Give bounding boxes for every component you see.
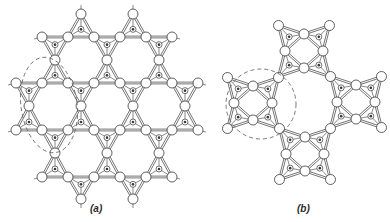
sphere xyxy=(248,115,258,125)
sphere xyxy=(76,194,86,204)
sphere xyxy=(89,78,99,88)
sphere xyxy=(370,97,380,107)
sphere xyxy=(300,132,310,142)
sphere xyxy=(115,172,125,182)
sphere xyxy=(76,9,86,19)
sphere xyxy=(167,78,177,88)
sphere xyxy=(332,97,342,107)
sphere xyxy=(280,46,290,56)
sphere xyxy=(377,72,387,82)
sphere xyxy=(11,125,21,135)
sphere xyxy=(299,63,309,73)
sphere xyxy=(63,78,73,88)
sphere xyxy=(102,55,112,65)
sphere xyxy=(167,172,177,182)
panel-b-tetrahedra xyxy=(228,26,382,180)
sphere xyxy=(37,172,47,182)
sphere xyxy=(248,81,258,91)
sphere xyxy=(128,9,138,19)
sphere xyxy=(37,125,47,135)
sphere xyxy=(299,29,309,39)
sphere xyxy=(63,32,73,42)
sphere xyxy=(89,125,99,135)
sphere xyxy=(351,114,361,124)
sphere xyxy=(128,194,138,204)
sphere xyxy=(326,124,336,134)
sphere xyxy=(141,78,151,88)
sphere xyxy=(167,125,177,135)
sphere xyxy=(300,166,310,176)
sphere xyxy=(11,78,21,88)
sphere xyxy=(89,172,99,182)
panel-b-spheres xyxy=(223,21,387,185)
sphere xyxy=(281,149,291,159)
sphere xyxy=(223,73,233,83)
sphere xyxy=(351,80,361,90)
sphere xyxy=(267,98,277,108)
sphere xyxy=(89,32,99,42)
sphere xyxy=(115,32,125,42)
sphere xyxy=(63,172,73,182)
sphere xyxy=(167,32,177,42)
sphere xyxy=(377,123,387,133)
sphere xyxy=(115,78,125,88)
sphere xyxy=(326,175,336,185)
sphere xyxy=(223,124,233,134)
sphere xyxy=(275,175,285,185)
tetrahedral-network-figure xyxy=(0,0,390,222)
sphere xyxy=(63,125,73,135)
sphere xyxy=(325,21,335,31)
panel-b-caption: (b) xyxy=(297,203,310,214)
sphere xyxy=(24,101,34,111)
sphere xyxy=(193,78,203,88)
sphere xyxy=(154,55,164,65)
sphere xyxy=(193,125,203,135)
sphere xyxy=(141,32,151,42)
sphere xyxy=(274,21,284,31)
sphere xyxy=(102,148,112,158)
sphere xyxy=(37,78,47,88)
panel-a-kagome-network xyxy=(8,5,206,208)
sphere xyxy=(319,149,329,159)
sphere xyxy=(229,98,239,108)
panel-a-caption: (a) xyxy=(90,203,102,214)
sphere xyxy=(326,72,336,82)
sphere xyxy=(141,172,151,182)
panel-b-bonds xyxy=(227,25,383,181)
sphere xyxy=(141,125,151,135)
sphere xyxy=(37,32,47,42)
sphere xyxy=(115,125,125,135)
sphere xyxy=(154,148,164,158)
sphere xyxy=(128,101,138,111)
sphere xyxy=(318,46,328,56)
panel-b-square-clusters xyxy=(223,21,387,185)
sphere xyxy=(275,124,285,134)
sphere xyxy=(180,101,190,111)
